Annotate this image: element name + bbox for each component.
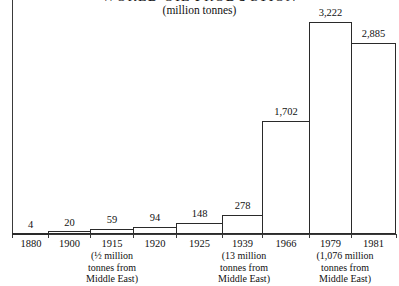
bar-1979 <box>309 22 352 234</box>
x-label-1966: 1966 <box>262 238 310 249</box>
bar-1915 <box>90 229 134 234</box>
bar-value-1979: 3,222 <box>309 7 352 18</box>
x-label-1880: 1880 <box>9 238 53 249</box>
bar-1925 <box>176 223 223 234</box>
bar-value-1925: 148 <box>176 208 223 219</box>
y-axis-line <box>12 0 13 234</box>
x-label-1920: 1920 <box>133 238 177 249</box>
annotation-line: Middle East) <box>291 273 399 285</box>
bar-value-1966: 1,702 <box>262 106 310 117</box>
x-label-1979: 1979 <box>309 238 352 249</box>
x-label-1915: 1915 <box>90 238 134 249</box>
annotation-line: tonnes from <box>62 262 162 274</box>
bar-value-1900: 20 <box>48 217 91 228</box>
x-axis-line <box>12 234 396 235</box>
annotation-line: (13 million <box>194 250 294 262</box>
bar-1880 <box>12 233 49 235</box>
x-label-1900: 1900 <box>48 238 91 249</box>
annotation-line: tonnes from <box>194 262 294 274</box>
x-label-1981: 1981 <box>351 238 396 249</box>
annotation-line: tonnes from <box>291 262 399 274</box>
annotation-1939-middle-east: (13 million tonnes from Middle East) <box>194 250 294 285</box>
bar-value-1920: 94 <box>133 212 177 223</box>
bar-1900 <box>48 231 91 234</box>
bar-value-1981: 2,885 <box>351 28 396 39</box>
bar-value-1939: 278 <box>222 200 263 211</box>
x-axis-tick <box>396 234 397 238</box>
annotation-line: (½ million <box>62 250 162 262</box>
x-label-1939: 1939 <box>222 238 263 249</box>
annotation-1979-middle-east: (1,076 million tonnes from Middle East) <box>291 250 399 285</box>
bar-1939 <box>222 215 263 234</box>
annotation-line: Middle East) <box>62 273 162 285</box>
bar-value-1915: 59 <box>90 214 134 225</box>
bar-1920 <box>133 227 177 234</box>
bar-value-1880: 4 <box>12 219 49 230</box>
annotation-1915-middle-east: (½ million tonnes from Middle East) <box>62 250 162 285</box>
bar-1981 <box>351 43 396 234</box>
annotation-line: Middle East) <box>194 273 294 285</box>
bar-1966 <box>262 121 310 234</box>
oil-production-bar-chart: WORLD OIL PRODUCTION (million tonnes) 4 … <box>0 0 399 286</box>
x-label-1925: 1925 <box>176 238 223 249</box>
annotation-line: (1,076 million <box>291 250 399 262</box>
